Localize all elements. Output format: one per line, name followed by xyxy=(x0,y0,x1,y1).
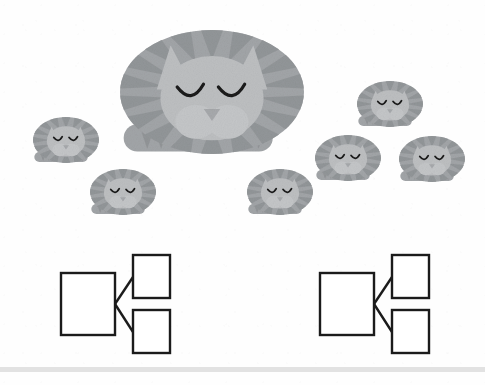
footer-layer xyxy=(0,0,485,385)
page-canvas xyxy=(0,0,485,385)
footer-rule-svg xyxy=(0,0,485,385)
footer-rule xyxy=(0,367,485,372)
